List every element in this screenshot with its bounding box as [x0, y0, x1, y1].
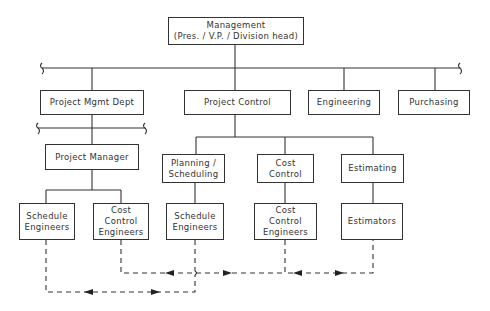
- arrow-left-bottom: [84, 289, 93, 295]
- break-mark-left: [41, 63, 44, 74]
- node-purchasing: Purchasing: [398, 90, 470, 115]
- arrow-right-mid-1: [223, 270, 232, 276]
- arrow-left-mid-1: [165, 270, 174, 276]
- node-cost-control-engineers-pm: Cost Control Engineers: [93, 203, 149, 240]
- node-project-manager: Project Manager: [45, 144, 139, 170]
- node-cost-control-engineers-pc: Cost Control Engineers: [254, 203, 317, 240]
- dashed-link-cost-to-estimators: [285, 240, 373, 273]
- arrow-left-mid-2: [293, 270, 302, 276]
- arrow-right-bottom: [151, 289, 160, 295]
- node-project-mgmt-dept: Project Mgmt Dept: [40, 90, 144, 115]
- arrow-right-mid-2: [335, 270, 344, 276]
- dashed-link-schedule-engineers: [46, 240, 195, 292]
- line-hop: [195, 271, 197, 275]
- node-management: Management (Pres. / V.P. / Division head…: [168, 17, 304, 45]
- node-planning-scheduling: Planning / Scheduling: [162, 154, 225, 183]
- node-estimating: Estimating: [341, 154, 404, 183]
- node-schedule-engineers-pm: Schedule Engineers: [19, 203, 75, 240]
- break-mark-pmd-left: [37, 123, 40, 134]
- dashed-link-cost-control-engineers: [121, 240, 285, 273]
- node-engineering: Engineering: [308, 90, 380, 115]
- node-schedule-engineers-pc: Schedule Engineers: [166, 203, 224, 240]
- node-cost-control: Cost Control: [257, 154, 314, 183]
- node-estimators: Estimators: [341, 203, 403, 240]
- node-project-control: Project Control: [184, 90, 291, 115]
